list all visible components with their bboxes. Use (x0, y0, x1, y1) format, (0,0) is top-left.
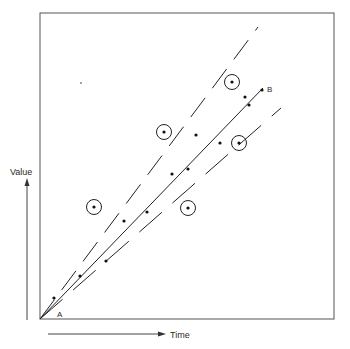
trend-lines (40, 27, 281, 319)
time-axis-label: Time (170, 330, 190, 340)
line-lower-bound (40, 108, 281, 319)
stray-mark (80, 82, 82, 84)
outlier-point (237, 141, 240, 144)
value-axis-arrow (25, 178, 30, 320)
outlier-point (186, 206, 189, 209)
time-axis-arrow (48, 332, 166, 337)
value-axis-label: Value (10, 167, 32, 177)
data-point (243, 95, 246, 98)
data-point (78, 274, 81, 277)
data-point (52, 296, 55, 299)
outlier-point (92, 205, 95, 208)
line-upper-bound (40, 27, 258, 319)
circled-outlier-points (87, 75, 247, 216)
data-point (247, 103, 250, 106)
line-trend-A-to-B (40, 88, 263, 319)
data-point (104, 259, 107, 262)
data-point (145, 210, 148, 213)
data-point (122, 219, 125, 222)
data-point (260, 88, 263, 91)
data-point (218, 141, 221, 144)
data-point (186, 167, 189, 170)
outlier-point (230, 80, 233, 83)
data-point (170, 172, 173, 175)
point-b-label: B (267, 85, 272, 94)
data-point (194, 133, 197, 136)
point-a-label: A (57, 310, 63, 319)
data-points (52, 82, 263, 300)
chart-canvas: Value Time A B (0, 0, 350, 349)
outlier-point (162, 130, 165, 133)
